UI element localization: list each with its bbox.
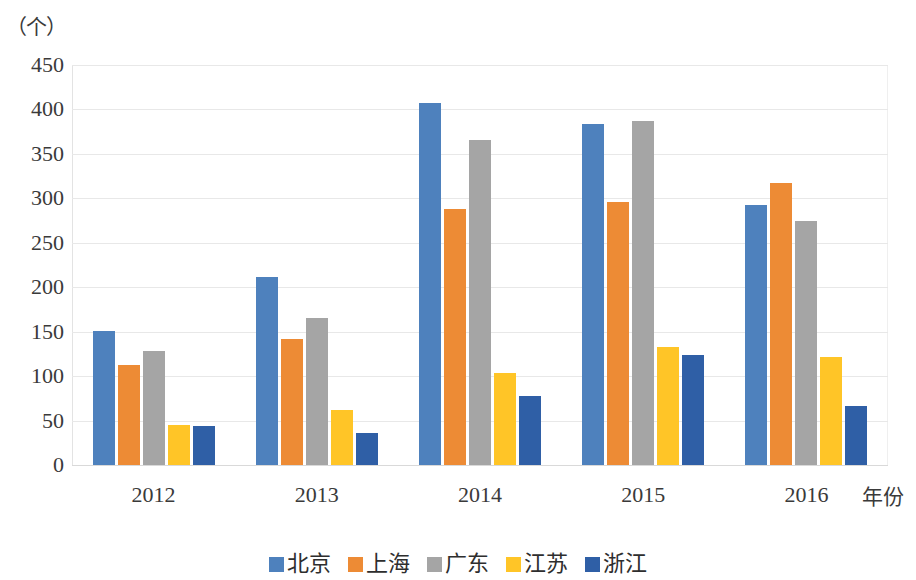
y-axis-tick-label: 50 <box>4 410 64 432</box>
legend-item-上海: 上海 <box>348 552 410 576</box>
bar <box>143 351 165 465</box>
bar-group-2016 <box>725 65 888 465</box>
bar <box>845 406 867 465</box>
legend-swatch-icon <box>348 557 363 572</box>
y-axis-tick-label: 100 <box>4 365 64 387</box>
y-axis-tick-label: 450 <box>4 54 64 76</box>
bar <box>118 365 140 465</box>
gridline <box>72 465 888 466</box>
legend-item-江苏: 江苏 <box>506 552 568 576</box>
chart-legend: 北京上海广东江苏浙江 <box>0 552 916 576</box>
bar <box>682 355 704 465</box>
bar <box>745 205 767 465</box>
bar <box>419 103 441 465</box>
x-axis-tick-label: 2013 <box>235 482 398 512</box>
legend-swatch-icon <box>269 557 284 572</box>
bar <box>306 318 328 465</box>
x-axis-title: 年份 <box>862 484 904 510</box>
x-axis-tick-label: 2012 <box>72 482 235 512</box>
bar <box>632 121 654 465</box>
legend-swatch-icon <box>585 557 600 572</box>
legend-swatch-icon <box>427 557 442 572</box>
bar-group-2015 <box>562 65 725 465</box>
bar <box>582 124 604 465</box>
y-axis-tick-label: 200 <box>4 276 64 298</box>
bar-group-2014 <box>398 65 561 465</box>
bar-groups <box>72 65 888 465</box>
bar <box>444 209 466 465</box>
y-axis-tick-label: 150 <box>4 321 64 343</box>
bar <box>93 331 115 465</box>
legend-label: 北京 <box>287 552 331 576</box>
bar-group-2013 <box>235 65 398 465</box>
bar <box>331 410 353 465</box>
legend-label: 江苏 <box>524 552 568 576</box>
bar <box>519 396 541 465</box>
bar <box>494 373 516 465</box>
legend-item-北京: 北京 <box>269 552 331 576</box>
y-axis-tick-label: 250 <box>4 232 64 254</box>
x-axis-tick-label: 2015 <box>562 482 725 512</box>
bar <box>356 433 378 465</box>
y-axis-tick-label: 400 <box>4 98 64 120</box>
plot-area <box>72 65 888 465</box>
bar <box>168 425 190 465</box>
bar <box>281 339 303 465</box>
y-axis-tick-label: 350 <box>4 143 64 165</box>
legend-swatch-icon <box>506 557 521 572</box>
bar <box>820 357 842 465</box>
legend-label: 上海 <box>366 552 410 576</box>
bar <box>193 426 215 465</box>
y-axis-tick-label: 300 <box>4 187 64 209</box>
bar-group-2012 <box>72 65 235 465</box>
bar <box>607 202 629 465</box>
legend-item-浙江: 浙江 <box>585 552 647 576</box>
legend-item-广东: 广东 <box>427 552 489 576</box>
bar <box>657 347 679 465</box>
legend-label: 浙江 <box>603 552 647 576</box>
y-axis-tick-labels: 450400350300250200150100500 <box>0 0 64 580</box>
bar <box>795 221 817 465</box>
y-axis-tick-label: 0 <box>4 454 64 476</box>
bar <box>256 277 278 465</box>
x-axis-tick-labels: 20122013201420152016 <box>72 482 888 512</box>
legend-label: 广东 <box>445 552 489 576</box>
bar <box>770 183 792 465</box>
x-axis-tick-label: 2014 <box>398 482 561 512</box>
bar <box>469 140 491 465</box>
